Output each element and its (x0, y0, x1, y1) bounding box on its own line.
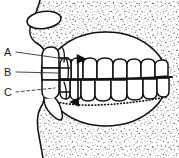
illustration-canvas (0, 0, 179, 158)
label-c: C (4, 87, 12, 98)
label-a: A (4, 47, 11, 58)
lower-dental-arch (60, 78, 169, 101)
label-b: B (4, 67, 11, 78)
upper-dental-arch (60, 58, 168, 79)
dental-illustration-figure: A B C (0, 0, 179, 158)
